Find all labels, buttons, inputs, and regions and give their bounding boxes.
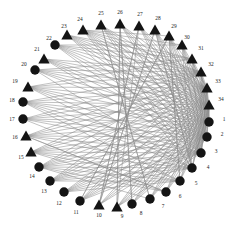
graph-node-label-34: 34 [218,96,224,102]
graph-node-13[interactable] [45,176,54,185]
graph-node-label-12: 12 [56,200,62,206]
graph-node-label-19: 19 [12,78,18,84]
graph-node-label-10: 10 [96,212,102,218]
graph-node-27[interactable] [133,21,144,31]
graph-node-label-28: 28 [155,15,161,21]
graph-node-20[interactable] [30,65,39,74]
graph-node-label-3: 3 [215,148,218,154]
graph-node-4[interactable] [187,163,196,172]
graph-node-14[interactable] [34,162,43,171]
graph-node-8[interactable] [127,199,136,208]
graph-node-28[interactable] [149,25,160,35]
graph-node-label-4: 4 [207,164,210,170]
graph-node-25[interactable] [95,20,106,30]
graph-edge [55,45,192,59]
graph-node-label-9: 9 [121,213,124,219]
graph-node-label-21: 21 [34,46,40,52]
graph-node-label-16: 16 [12,134,18,140]
graph-node-label-5: 5 [195,180,198,186]
graph-node-22[interactable] [50,40,59,49]
graph-node-7[interactable] [145,194,154,203]
graph-node-label-7: 7 [162,203,165,209]
graph-node-label-30: 30 [184,34,190,40]
graph-node-11[interactable] [75,196,84,205]
graph-node-label-8: 8 [140,210,143,216]
graph-node-6[interactable] [161,187,170,196]
graph-node-label-22: 22 [46,35,52,41]
graph-node-26[interactable] [114,19,125,29]
graph-node-5[interactable] [175,176,184,185]
graph-node-label-23: 23 [61,23,67,29]
graph-node-21[interactable] [38,54,49,64]
network-graph-figure: 1234567891011121314151617181920212223242… [0,0,238,229]
graph-node-3[interactable] [196,148,205,157]
graph-node-label-2: 2 [221,131,224,137]
graph-node-label-33: 33 [215,78,221,84]
graph-node-label-20: 20 [21,61,27,67]
graph-node-label-25: 25 [98,10,104,16]
graph-node-label-27: 27 [137,11,143,17]
graph-node-12[interactable] [59,187,68,196]
graph-node-1[interactable] [204,117,213,126]
graph-node-2[interactable] [202,132,211,141]
graph-node-label-1: 1 [223,116,226,122]
graph-node-label-24: 24 [77,16,83,22]
graph-node-label-15: 15 [18,154,24,160]
graph-node-label-26: 26 [117,9,123,15]
graph-node-18[interactable] [18,97,27,106]
graph-node-23[interactable] [61,30,72,40]
graph-node-label-13: 13 [41,188,47,194]
graph-node-24[interactable] [77,25,88,35]
graph-canvas: 1234567891011121314151617181920212223242… [0,0,238,229]
graph-node-label-32: 32 [208,61,214,67]
graph-node-label-6: 6 [179,193,182,199]
graph-node-label-31: 31 [198,45,204,51]
graph-node-label-29: 29 [171,23,177,29]
graph-node-label-17: 17 [9,116,15,122]
graph-node-label-14: 14 [29,173,35,179]
graph-node-label-18: 18 [9,97,15,103]
graph-node-label-11: 11 [73,209,78,215]
graph-node-17[interactable] [18,114,27,123]
